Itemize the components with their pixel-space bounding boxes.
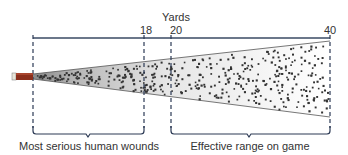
bracket-human-wounds: [33, 126, 144, 137]
tick-label-18: 18: [140, 24, 152, 36]
axis-title-yards: Yards: [162, 11, 190, 23]
tick-label-40: 40: [324, 24, 336, 36]
label-human-wounds: Most serious human wounds: [19, 140, 159, 152]
tick-label-20: 20: [170, 24, 182, 36]
bracket-effective-range: [171, 126, 330, 137]
shotgun-shell-icon: [12, 73, 33, 80]
label-effective-range: Effective range on game: [190, 140, 309, 152]
shotgun-spread-diagram: Yards 18 20 40 Most serious human wounds…: [0, 0, 348, 155]
